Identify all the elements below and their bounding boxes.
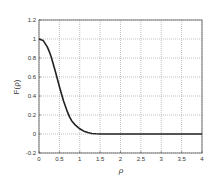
x-tick-label: 3.5 <box>177 156 186 162</box>
y-tick-label: 0.6 <box>28 74 37 80</box>
y-tick-label: 1 <box>33 36 37 42</box>
y-tick-label: 0 <box>33 131 37 137</box>
x-tick-label: 1 <box>78 156 82 162</box>
y-tick-label: 0.8 <box>28 55 37 61</box>
x-tick-label: 2.5 <box>137 156 146 162</box>
y-tick-label: -0.2 <box>26 150 37 156</box>
x-tick-label: 3 <box>160 156 164 162</box>
x-axis-label: ρ <box>118 166 124 175</box>
y-tick-label: 1.2 <box>28 17 37 23</box>
y-axis-label: F(ρ) <box>12 79 21 94</box>
y-tick-label: 0.2 <box>28 112 37 118</box>
x-tick-label: 1.5 <box>96 156 105 162</box>
y-tick-label: 0.4 <box>28 93 37 99</box>
x-tick-label: 0.5 <box>55 156 64 162</box>
x-tick-label: 4 <box>200 156 204 162</box>
x-tick-label: 0 <box>37 156 41 162</box>
chart: 00.511.522.533.54 -0.200.20.40.60.811.2 … <box>0 0 213 181</box>
x-tick-label: 2 <box>119 156 123 162</box>
